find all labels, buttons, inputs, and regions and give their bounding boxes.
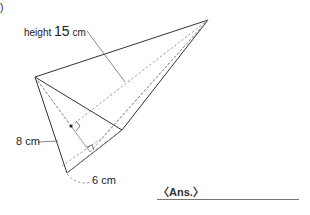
height-label: height 15 cm [24,23,86,39]
height-value: 15 [54,23,70,39]
question-number: ) [0,2,3,13]
visible-edges [35,20,208,173]
height-label-prefix: height [24,27,51,38]
answer-label: 〈Ans.〉 [158,183,204,199]
hidden-edges [35,20,208,183]
base-length-label: 6 cm [92,174,116,186]
answer-line[interactable] [157,199,299,200]
side-length-label: 8 cm [16,135,40,147]
apex-foot-dot [69,124,72,127]
height-unit: cm [72,27,85,38]
